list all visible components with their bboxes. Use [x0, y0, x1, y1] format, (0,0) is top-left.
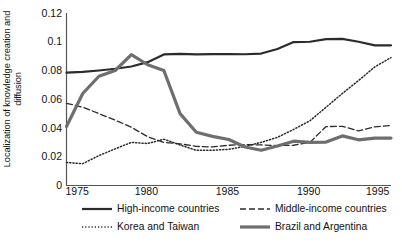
series-line: [67, 55, 392, 151]
legend-label: High-income countries: [117, 203, 219, 215]
chart-legend: High-income countriesMiddle-income count…: [62, 203, 398, 239]
x-tick-label: 1990: [297, 186, 320, 197]
legend-item[interactable]: Brazil and Argentina: [240, 221, 367, 233]
line-chart: Localization of knowledge creation and d…: [0, 0, 402, 243]
legend-item[interactable]: Middle-income countries: [240, 203, 387, 215]
legend-label: Brazil and Argentina: [275, 221, 367, 233]
legend-swatch-dashed-icon: [240, 203, 270, 215]
x-tick-label: 1975: [66, 186, 89, 197]
legend-label: Middle-income countries: [275, 203, 387, 215]
legend-swatch-dotted-icon: [82, 221, 112, 233]
legend-swatch-solid-thick-icon: [240, 221, 270, 233]
legend-item[interactable]: Korea and Taiwan: [82, 221, 199, 233]
legend-swatch-solid-icon: [82, 203, 112, 215]
x-tick-label: 1995: [366, 186, 389, 197]
x-tick-label: 1985: [216, 186, 239, 197]
legend-item[interactable]: High-income countries: [82, 203, 219, 215]
legend-label: Korea and Taiwan: [117, 221, 199, 233]
series-line: [67, 58, 392, 164]
series-line: [67, 39, 392, 73]
x-tick-label: 1980: [135, 186, 158, 197]
data-series-layer: [67, 39, 392, 164]
